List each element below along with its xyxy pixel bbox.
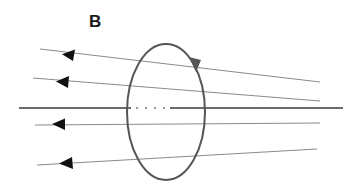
loop-direction-arrow-icon: [189, 57, 201, 72]
field-line-3: [35, 123, 320, 125]
field-line-4: [37, 149, 317, 165]
arrow-left-icon: [52, 119, 65, 131]
arrow-left-icon: [56, 76, 69, 88]
diagram-canvas: [0, 0, 364, 193]
magnetic-field-loop-diagram: B: [0, 0, 364, 193]
field-lines: [33, 49, 320, 165]
arrow-left-icon: [59, 157, 73, 169]
field-line-1: [40, 49, 320, 82]
field-line-2: [33, 78, 320, 101]
field-arrowheads: [52, 50, 75, 170]
arrow-left-icon: [62, 50, 75, 62]
field-label: B: [89, 12, 101, 32]
